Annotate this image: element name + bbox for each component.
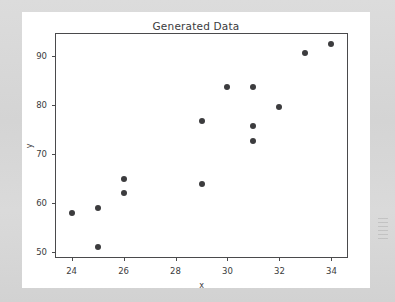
y-axis-tick-label: 90 — [36, 51, 47, 61]
figure-canvas: Generated Data x y 242628303234506070809… — [22, 12, 370, 288]
x-axis-tick — [72, 257, 73, 261]
x-axis-tick-label: 32 — [274, 266, 285, 276]
x-axis-tick — [279, 257, 280, 261]
scatter-point — [199, 181, 205, 187]
x-axis-tick — [331, 257, 332, 261]
y-axis-tick-label: 80 — [36, 100, 47, 110]
y-axis-tick — [52, 203, 56, 204]
x-axis-tick — [176, 257, 177, 261]
y-axis-tick — [52, 154, 56, 155]
x-axis-tick-label: 28 — [170, 266, 181, 276]
y-axis-tick — [52, 252, 56, 253]
plot-axes-area: x y 2426283032345060708090 — [55, 33, 348, 258]
scatter-point — [95, 205, 101, 211]
y-axis-tick-label: 70 — [36, 149, 47, 159]
scatter-point — [250, 138, 256, 144]
page-corner-smudge — [378, 218, 388, 240]
y-axis-tick — [52, 56, 56, 57]
scatter-point — [95, 244, 101, 250]
scatter-point — [121, 176, 127, 182]
y-axis-label: y — [25, 143, 34, 148]
x-axis-tick-label: 24 — [66, 266, 77, 276]
y-axis-tick — [52, 105, 56, 106]
x-axis-tick — [227, 257, 228, 261]
x-axis-label: x — [199, 281, 204, 290]
scatter-point — [250, 123, 256, 129]
scatter-point — [328, 41, 334, 47]
y-axis-tick-label: 50 — [36, 247, 47, 257]
x-axis-tick — [124, 257, 125, 261]
x-axis-tick-label: 34 — [326, 266, 337, 276]
page-title: Generated Data — [22, 20, 370, 32]
scatter-point — [276, 104, 282, 110]
scatter-point — [250, 84, 256, 90]
scatter-point — [302, 50, 308, 56]
scatter-point — [224, 84, 230, 90]
y-axis-tick-label: 60 — [36, 198, 47, 208]
scatter-plot-surface — [56, 34, 347, 257]
scatter-point — [199, 118, 205, 124]
scatter-point — [69, 210, 75, 216]
scatter-point — [121, 190, 127, 196]
x-axis-tick-label: 30 — [222, 266, 233, 276]
x-axis-tick-label: 26 — [118, 266, 129, 276]
